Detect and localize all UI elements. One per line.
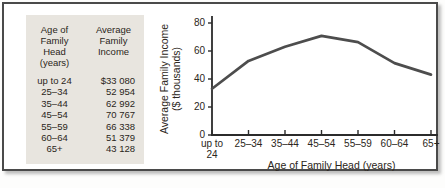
x-tick-label: 60–64 bbox=[381, 138, 409, 149]
income-header-line: Income bbox=[83, 46, 144, 57]
age-cell: 35–44 bbox=[26, 98, 83, 109]
figure-frame: Age of Family Head (years) Average Famil… bbox=[2, 2, 438, 171]
table-header: Age of Family Head (years) Average Famil… bbox=[26, 24, 144, 68]
income-series-line bbox=[212, 36, 431, 89]
age-cell: 65+ bbox=[26, 143, 83, 154]
x-tick-label: 25–34 bbox=[235, 138, 263, 149]
income-cell: 52 954 bbox=[83, 86, 144, 97]
x-tick-label: 45–54 bbox=[308, 138, 336, 149]
y-tick-label: 60 bbox=[194, 45, 206, 56]
table-row: 25–3452 954 bbox=[26, 86, 144, 97]
y-tick-label: 80 bbox=[194, 17, 206, 28]
x-axis-title: Age of Family Head (years) bbox=[268, 159, 396, 171]
age-header-line: Head bbox=[26, 46, 83, 57]
table-body: up to 24$33 080 25–3452 954 35–4462 992 … bbox=[26, 75, 144, 155]
income-line-chart: 020406080up to2425–3435–4445–5455–5960–6… bbox=[157, 10, 445, 173]
table-row: 45–5470 767 bbox=[26, 109, 144, 120]
income-cell: 66 338 bbox=[83, 121, 144, 132]
x-tick-label: 65+ bbox=[423, 138, 440, 149]
table-row: 35–4462 992 bbox=[26, 98, 144, 109]
age-cell: 25–34 bbox=[26, 86, 83, 97]
income-cell: 43 128 bbox=[83, 143, 144, 154]
age-column-header: Age of Family Head (years) bbox=[26, 24, 83, 68]
table-row: up to 24$33 080 bbox=[26, 75, 144, 86]
income-header-line: Average bbox=[83, 24, 144, 35]
x-tick-label: 55–59 bbox=[344, 138, 372, 149]
age-cell: up to 24 bbox=[26, 75, 83, 86]
income-cell: 51 379 bbox=[83, 132, 144, 143]
age-cell: 60–64 bbox=[26, 132, 83, 143]
table-row: 55–5966 338 bbox=[26, 121, 144, 132]
y-tick-label: 40 bbox=[194, 73, 206, 84]
income-cell: 62 992 bbox=[83, 98, 144, 109]
income-cell: 70 767 bbox=[83, 109, 144, 120]
x-tick-label: up to bbox=[201, 138, 224, 149]
age-header-line: (years) bbox=[26, 57, 83, 68]
y-axis-title-line1: Average Family Income bbox=[158, 24, 170, 134]
age-header-line: Age of bbox=[26, 24, 83, 35]
y-tick-label: 20 bbox=[194, 101, 206, 112]
table-row: 65+43 128 bbox=[26, 143, 144, 154]
income-cell: $33 080 bbox=[83, 75, 144, 86]
age-cell: 45–54 bbox=[26, 109, 83, 120]
age-cell: 55–59 bbox=[26, 121, 83, 132]
income-table: Age of Family Head (years) Average Famil… bbox=[26, 15, 144, 164]
x-tick-label: 24 bbox=[206, 149, 218, 160]
y-axis-title-line2: ($ thousands) bbox=[170, 47, 182, 111]
income-header-line: Family bbox=[83, 35, 144, 46]
age-header-line: Family bbox=[26, 35, 83, 46]
x-tick-label: 35–44 bbox=[271, 138, 299, 149]
income-column-header: Average Family Income bbox=[83, 24, 144, 68]
table-row: 60–6451 379 bbox=[26, 132, 144, 143]
